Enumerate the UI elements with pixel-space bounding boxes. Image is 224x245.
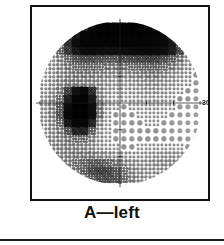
axis-degree-label: 30 xyxy=(202,98,210,107)
visual-field-grayscale-plot xyxy=(32,7,208,199)
bottom-divider xyxy=(0,239,224,241)
visual-field-plot-frame xyxy=(30,5,210,201)
figure-caption: A—left xyxy=(0,203,224,223)
visual-field-figure: 30 A—left xyxy=(0,0,224,245)
